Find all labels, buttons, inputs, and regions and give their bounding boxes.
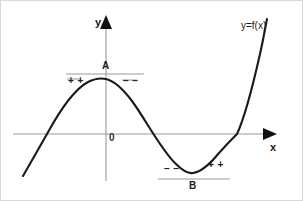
y-axis-label: y: [95, 17, 101, 28]
y-axis-arrowhead: [100, 15, 112, 29]
sign-marks-a-right: – –: [123, 76, 138, 86]
x-axis-arrowhead: [263, 128, 277, 140]
point-label-a: A: [102, 61, 109, 71]
sign-marks-a-left: + +: [68, 76, 84, 86]
sign-marks-b-left: – –: [164, 164, 179, 174]
sign-marks-b-right: + +: [208, 160, 224, 170]
point-label-b: B: [189, 181, 196, 191]
function-curve: [23, 19, 267, 176]
x-axis-label: x: [270, 142, 276, 153]
function-graph-figure: y x 0 y=f(x) A B + + – – – – + +: [0, 0, 303, 201]
graph-canvas: [1, 1, 303, 201]
function-label: y=f(x): [241, 21, 266, 31]
origin-label: 0: [109, 133, 115, 143]
